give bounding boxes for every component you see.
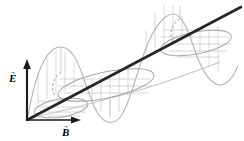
- e-axis-arrowhead: [23, 59, 31, 69]
- dashed-arc-left: [53, 72, 61, 96]
- electromagnetic-wave-figure: → E → B: [0, 0, 244, 141]
- crest-connector-group: [61, 6, 180, 117]
- e-field-axis-label: → E: [9, 73, 16, 84]
- hidden-dashed-arcs-group: [53, 19, 180, 96]
- figure-canvas: [0, 0, 244, 141]
- e-axis-arrow: [23, 59, 31, 120]
- b-axis-arrowhead: [71, 116, 81, 123]
- b-vector-arrow-icon: →: [62, 123, 69, 127]
- b-field-ellipse-2: [55, 62, 156, 108]
- e-vector-arrow-icon: →: [9, 69, 16, 73]
- b-field-axis-label: → B: [62, 127, 69, 138]
